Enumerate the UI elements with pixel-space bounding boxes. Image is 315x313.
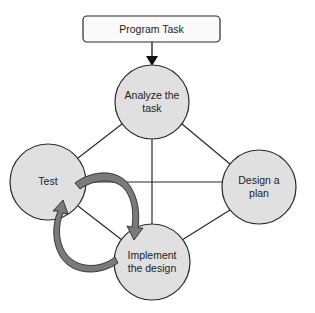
start-arrow [146, 42, 158, 66]
node-analyze-line1: Analyze the [125, 89, 180, 101]
node-implement-line2: the design [128, 262, 177, 274]
program-task-label: Program Task [119, 23, 184, 35]
node-test-line1: Test [38, 175, 57, 187]
diagram-canvas: Program Task Analyze the task Test Desig… [0, 0, 315, 313]
node-analyze-line2: task [142, 102, 162, 114]
edge-design-implement [182, 210, 230, 240]
node-test: Test [10, 144, 86, 220]
node-design-line2: plan [249, 187, 269, 199]
connector-lines [78, 124, 230, 240]
node-implement-line1: Implement [127, 249, 176, 261]
node-analyze: Analyze the task [115, 65, 189, 139]
edge-analyze-test [78, 124, 122, 158]
cycle-arrow-implement-to-test [53, 200, 118, 272]
node-design-line1: Design a [238, 174, 280, 186]
node-design: Design a plan [222, 150, 296, 224]
program-task-box: Program Task [83, 16, 220, 42]
edge-analyze-design [182, 124, 230, 164]
edge-test-implement [78, 206, 122, 240]
node-implement: Implement the design [114, 224, 190, 300]
